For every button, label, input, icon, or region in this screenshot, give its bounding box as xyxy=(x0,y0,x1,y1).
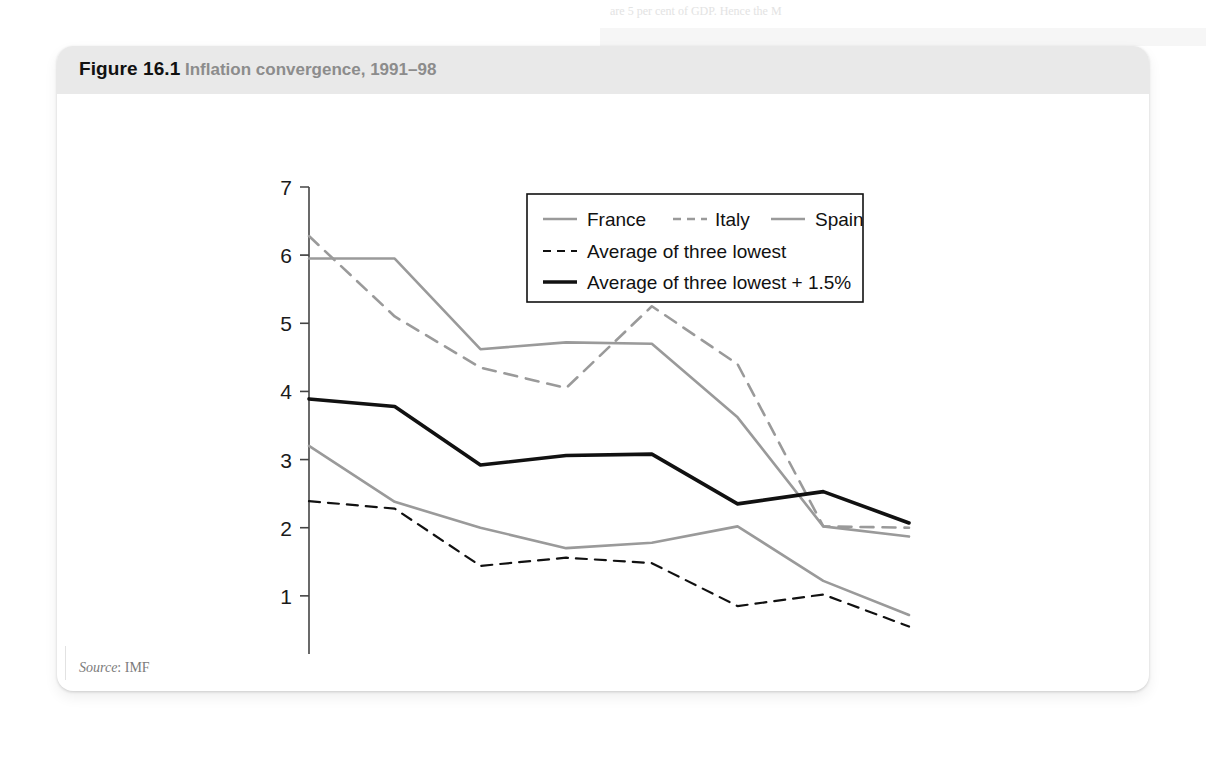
legend-label: Italy xyxy=(715,209,750,230)
y-tick-label: 3 xyxy=(280,449,292,472)
y-tick-label: 5 xyxy=(280,312,292,335)
y-tick-label: 7 xyxy=(280,176,292,199)
legend-label: France xyxy=(587,209,646,230)
legend-label: Average of three lowest xyxy=(587,241,787,262)
figure-number: Figure 16.1 xyxy=(79,58,180,80)
source-value: IMF xyxy=(125,660,150,675)
figure-card: Figure 16.1 Inflation convergence, 1991–… xyxy=(57,46,1149,691)
y-tick-label: 0 xyxy=(280,653,292,654)
bleed-through-text: are 5 per cent of GDP. Hence the M xyxy=(610,4,1200,19)
source-note: Source: IMF xyxy=(79,660,150,676)
plot-area: 0123456719911992199319941995199619971998… xyxy=(57,94,1149,654)
legend-label: Spain xyxy=(815,209,864,230)
y-tick-label: 6 xyxy=(280,244,292,267)
y-tick-label: 1 xyxy=(280,585,292,608)
legend-label: Average of three lowest + 1.5% xyxy=(587,272,851,293)
y-tick-label: 4 xyxy=(280,380,292,403)
line-chart: 0123456719911992199319941995199619971998… xyxy=(57,94,1149,654)
page-bleed-strip xyxy=(600,28,1206,46)
y-tick-label: 2 xyxy=(280,517,292,540)
source-colon: : xyxy=(117,660,124,675)
series-line xyxy=(309,446,909,615)
source-rule xyxy=(65,646,66,680)
figure-page: are 5 per cent of GDP. Hence the M Figur… xyxy=(0,0,1206,768)
figure-title: Inflation convergence, 1991–98 xyxy=(185,60,436,80)
source-label: Source xyxy=(79,660,117,675)
